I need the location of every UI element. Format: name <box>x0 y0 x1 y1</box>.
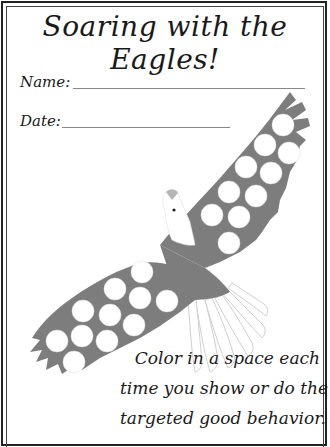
behavior-space[interactable] <box>235 156 257 178</box>
behavior-space[interactable] <box>278 142 300 164</box>
instructions-line-3: targeted good behavior. <box>120 403 320 433</box>
behavior-space[interactable] <box>245 185 267 207</box>
behavior-space[interactable] <box>46 330 68 352</box>
behavior-space[interactable] <box>72 300 94 322</box>
behavior-space[interactable] <box>131 261 153 283</box>
behavior-space[interactable] <box>201 204 223 226</box>
behavior-space[interactable] <box>218 181 240 203</box>
behavior-space[interactable] <box>260 162 282 184</box>
behavior-space[interactable] <box>96 330 118 352</box>
behavior-space[interactable] <box>254 134 276 156</box>
behavior-space[interactable] <box>218 232 240 254</box>
behavior-space[interactable] <box>99 304 121 326</box>
behavior-space[interactable] <box>129 287 151 309</box>
instructions-line-1: Color in a space each <box>120 343 320 373</box>
behavior-space[interactable] <box>71 325 93 347</box>
behavior-space[interactable] <box>104 278 126 300</box>
behavior-space[interactable] <box>272 114 294 136</box>
behavior-space[interactable] <box>228 206 250 228</box>
behavior-space[interactable] <box>63 351 85 373</box>
instructions-text: Color in a space each time you show or d… <box>120 343 320 433</box>
behavior-space[interactable] <box>123 314 145 336</box>
instructions-line-2: time you show or do the <box>120 373 320 403</box>
behavior-space[interactable] <box>156 290 178 312</box>
